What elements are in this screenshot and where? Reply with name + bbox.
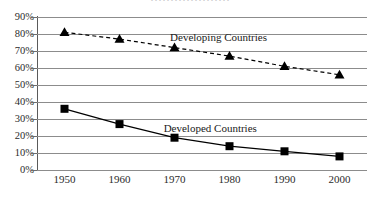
data-point-marker xyxy=(226,142,234,150)
x-tick-label: 1990 xyxy=(274,174,296,185)
x-tick-label: 1980 xyxy=(219,174,241,185)
x-tick-label: 1970 xyxy=(164,174,186,185)
cropped-title-remnant: ···················· xyxy=(0,0,380,9)
data-point-marker xyxy=(281,147,289,155)
x-tick-label: 2000 xyxy=(329,174,351,185)
x-axis-labels: 195019601970198019902000 xyxy=(37,174,367,196)
data-point-marker xyxy=(171,134,179,142)
x-tick-label: 1950 xyxy=(54,174,76,185)
cropped-title-text: ···················· xyxy=(150,0,230,8)
data-point-marker xyxy=(60,27,70,36)
y-axis-labels: 90%80%70%60%50%40%30%20%10%0% xyxy=(0,0,34,206)
x-axis-line xyxy=(37,170,367,171)
x-tick-label: 1960 xyxy=(109,174,131,185)
series-label-developing: Developing Countries xyxy=(170,32,267,43)
series-label-developed: Developed Countries xyxy=(164,122,257,133)
line-chart: ···················· 90%80%70%60%50%40%3… xyxy=(0,0,380,206)
data-point-marker xyxy=(116,120,124,128)
data-point-marker xyxy=(61,105,69,113)
data-point-marker xyxy=(336,152,344,160)
